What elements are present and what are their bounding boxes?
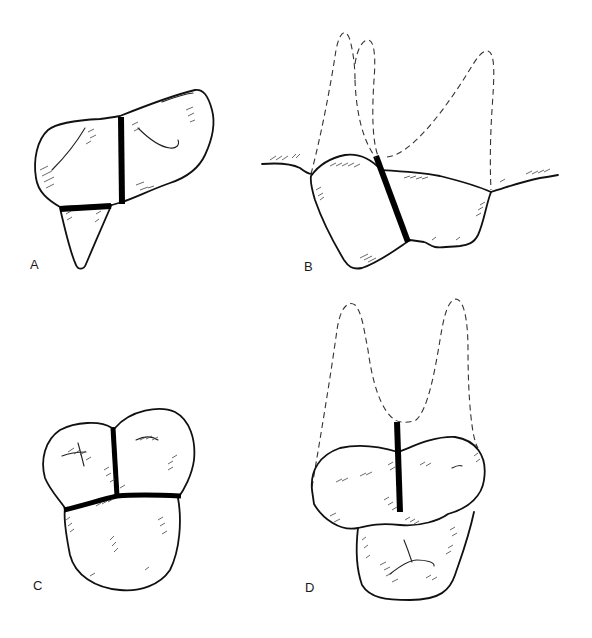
- panel-label-c: C: [33, 578, 42, 593]
- panel-label-b: B: [304, 259, 313, 274]
- panel-label-d: D: [305, 580, 314, 595]
- panel-d-drawing: [312, 299, 485, 600]
- panel-a-drawing: [35, 90, 214, 269]
- panel-c-drawing: [43, 409, 194, 590]
- panel-b-drawing: [262, 33, 558, 269]
- panel-label-a: A: [30, 257, 39, 272]
- tooth-diagram-canvas: [0, 0, 592, 638]
